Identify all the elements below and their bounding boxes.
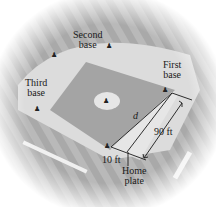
ten-ft-label: 10 ft — [102, 155, 121, 165]
third-base-label: Third base — [25, 78, 47, 98]
vignette — [0, 0, 216, 207]
baseball-diamond-diagram: ♟ ♟ ♟ ♟ ♟ ♟ Second base First base Third… — [0, 0, 216, 207]
home-plate-label: Home plate — [122, 166, 146, 186]
d-label: d — [133, 111, 138, 121]
second-base-label: Second base — [73, 30, 102, 50]
field-illustration: ♟ ♟ ♟ ♟ ♟ ♟ — [0, 0, 216, 207]
first-base-label: First base — [163, 60, 181, 80]
ninety-ft-label: 90 ft — [154, 127, 173, 137]
